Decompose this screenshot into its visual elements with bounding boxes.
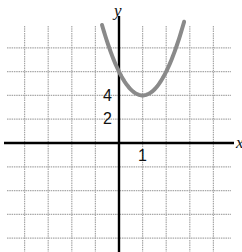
graph: y x 4 2 1 xyxy=(0,0,242,252)
x-axis-label: x xyxy=(235,133,242,152)
y-axis-label: y xyxy=(112,1,122,20)
y-tick-label-2: 2 xyxy=(103,110,112,127)
y-tick-label-4: 4 xyxy=(103,87,112,104)
x-tick-label-1: 1 xyxy=(138,147,147,164)
